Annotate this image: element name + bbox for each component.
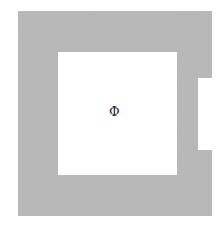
figure-canvas: Φ	[0, 0, 224, 232]
phi-symbol: Φ	[109, 105, 120, 118]
